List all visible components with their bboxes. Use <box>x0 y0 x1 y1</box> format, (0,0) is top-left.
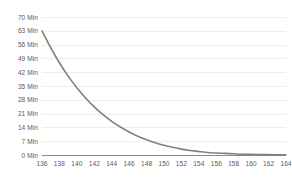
y-tick-label: 56 Min <box>0 41 38 48</box>
x-tick-label: 148 <box>141 160 152 168</box>
x-tick-label: 136 <box>36 160 47 168</box>
x-tick-label: 160 <box>246 160 257 168</box>
y-tick-label: 0 Min <box>0 152 38 159</box>
x-tick-label: 158 <box>228 160 239 168</box>
y-tick-label: 70 Min <box>0 14 38 21</box>
x-axis: 1361381401421441461481501521541561581601… <box>42 160 286 172</box>
x-tick-label: 162 <box>263 160 274 168</box>
y-tick-label: 14 Min <box>0 124 38 131</box>
y-tick-label: 28 Min <box>0 96 38 103</box>
x-tick-label: 164 <box>280 160 291 168</box>
x-tick-label: 150 <box>158 160 169 168</box>
y-tick-label: 63 Min <box>0 27 38 34</box>
y-tick-label: 7 Min <box>0 138 38 145</box>
y-tick-label: 42 Min <box>0 69 38 76</box>
x-tick-label: 138 <box>54 160 65 168</box>
y-tick-label: 21 Min <box>0 110 38 117</box>
y-tick-label: 49 Min <box>0 55 38 62</box>
x-tick-label: 146 <box>124 160 135 168</box>
x-tick-label: 152 <box>176 160 187 168</box>
x-tick-label: 144 <box>106 160 117 168</box>
plot-area <box>42 17 286 155</box>
line-path <box>42 31 286 155</box>
x-tick-label: 140 <box>71 160 82 168</box>
x-tick-label: 142 <box>89 160 100 168</box>
x-tick-label: 154 <box>193 160 204 168</box>
series-wait-time <box>42 17 286 155</box>
y-tick-label: 35 Min <box>0 83 38 90</box>
chart-container: 70 Min63 Min56 Min49 Min42 Min35 Min28 M… <box>0 0 292 184</box>
y-axis: 70 Min63 Min56 Min49 Min42 Min35 Min28 M… <box>0 0 38 184</box>
x-tick-label: 156 <box>211 160 222 168</box>
